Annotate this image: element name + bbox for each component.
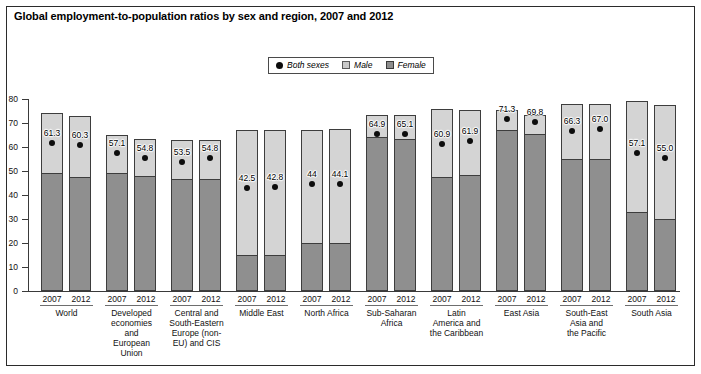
x-axis-region-label: Africa bbox=[359, 318, 424, 328]
both-sexes-marker-icon bbox=[272, 184, 278, 190]
x-axis-year-label: 2012 bbox=[198, 294, 224, 304]
x-axis-year-label: 2012 bbox=[653, 294, 679, 304]
x-axis-region-label: Sub-Saharan bbox=[359, 308, 424, 318]
bar-segment-female bbox=[459, 175, 481, 291]
x-axis-region-label: Latin bbox=[424, 308, 489, 318]
both-sexes-value-label: 60.3 bbox=[72, 130, 89, 140]
both-sexes-marker-icon bbox=[374, 131, 380, 137]
x-axis-region-label: Asia and bbox=[554, 318, 619, 328]
bar-2007[interactable]: 61.3 bbox=[41, 113, 63, 291]
y-axis-tick bbox=[22, 171, 28, 172]
bar-group: 57.155.0 bbox=[619, 99, 684, 291]
y-axis-tick-label: 10 bbox=[0, 262, 18, 272]
x-axis-region-label: Middle East bbox=[229, 308, 294, 318]
both-sexes-marker-icon bbox=[569, 128, 575, 134]
legend-item-both-sexes: Both sexes bbox=[276, 60, 329, 70]
both-sexes-value-label: 71.3 bbox=[499, 104, 516, 114]
bar-group: 53.554.8 bbox=[164, 99, 229, 291]
bar-2007[interactable]: 42.5 bbox=[236, 130, 258, 291]
both-sexes-value-label: 44 bbox=[307, 169, 316, 179]
bar-2007[interactable]: 44 bbox=[301, 130, 323, 291]
bar-2007[interactable]: 60.9 bbox=[431, 109, 453, 291]
bar-2012[interactable]: 55.0 bbox=[654, 105, 676, 291]
both-sexes-marker-icon bbox=[662, 155, 668, 161]
both-sexes-value-label: 61.9 bbox=[462, 126, 479, 136]
bar-segment-female bbox=[589, 159, 611, 291]
bar-2007[interactable]: 57.1 bbox=[106, 135, 128, 291]
bar-2012[interactable]: 44.1 bbox=[329, 129, 351, 291]
both-sexes-value-label: 64.9 bbox=[369, 119, 386, 129]
group-underline bbox=[40, 305, 93, 306]
both-sexes-value-label: 57.1 bbox=[109, 138, 126, 148]
bar-group: 4444.1 bbox=[294, 99, 359, 291]
x-axis-region-label: Developed bbox=[99, 308, 164, 318]
x-axis-region-label: America and bbox=[424, 318, 489, 328]
y-axis-tick bbox=[22, 219, 28, 220]
bar-group: 64.965.1 bbox=[359, 99, 424, 291]
bar-2012[interactable]: 69.8 bbox=[524, 115, 546, 291]
x-axis-group-4: 20072012Middle East bbox=[229, 294, 294, 318]
plot-area: 01020304050607080 61.360.357.154.853.554… bbox=[34, 99, 684, 291]
y-axis-line bbox=[28, 99, 29, 291]
male-swatch-icon bbox=[342, 61, 350, 69]
both-sexes-marker-icon bbox=[207, 155, 213, 161]
y-axis-tick-label: 20 bbox=[0, 238, 18, 248]
x-axis-region-label: and bbox=[99, 328, 164, 338]
bar-segment-female bbox=[626, 212, 648, 291]
x-axis-region-label: Central and bbox=[164, 308, 229, 318]
x-axis-group-10: 20072012South Asia bbox=[619, 294, 684, 318]
bar-segment-female bbox=[366, 137, 388, 291]
bar-2012[interactable]: 67.0 bbox=[589, 104, 611, 291]
y-axis-tick bbox=[22, 147, 28, 148]
x-axis-year-label: 2007 bbox=[429, 294, 455, 304]
x-axis-region-label: economies bbox=[99, 318, 164, 328]
bar-2007[interactable]: 57.1 bbox=[626, 101, 648, 291]
both-sexes-value-label: 66.3 bbox=[564, 116, 581, 126]
x-axis-region-label: East Asia bbox=[489, 308, 554, 318]
both-sexes-marker-icon bbox=[597, 126, 603, 132]
x-axis-year-label: 2007 bbox=[624, 294, 650, 304]
x-axis-region-label: South-Eastern bbox=[164, 318, 229, 328]
bar-segment-female bbox=[561, 159, 583, 291]
bar-segment-female bbox=[199, 179, 221, 291]
both-sexes-value-label: 54.8 bbox=[202, 143, 219, 153]
group-underline bbox=[235, 305, 288, 306]
chart-figure: Global employment-to-population ratios b… bbox=[0, 0, 701, 374]
y-axis-tick-label: 30 bbox=[0, 214, 18, 224]
both-sexes-marker-icon bbox=[244, 185, 250, 191]
both-sexes-value-label: 55.0 bbox=[657, 143, 674, 153]
both-sexes-marker-icon bbox=[309, 181, 315, 187]
bar-segment-female bbox=[264, 255, 286, 291]
legend-item-male: Male bbox=[342, 60, 372, 70]
bar-segment-female bbox=[41, 173, 63, 291]
x-axis-group-6: 20072012Sub-SaharanAfrica bbox=[359, 294, 424, 328]
bar-segment-female bbox=[236, 255, 258, 291]
bar-2012[interactable]: 65.1 bbox=[394, 115, 416, 291]
y-axis-tick-label: 60 bbox=[0, 142, 18, 152]
x-axis-year-label: 2007 bbox=[39, 294, 65, 304]
bar-2007[interactable]: 64.9 bbox=[366, 115, 388, 291]
y-axis-tick bbox=[22, 291, 28, 292]
both-sexes-marker-icon bbox=[77, 142, 83, 148]
both-sexes-marker-icon bbox=[504, 116, 510, 122]
both-sexes-marker-icon bbox=[276, 62, 283, 69]
bar-2012[interactable]: 54.8 bbox=[134, 139, 156, 291]
group-underline bbox=[300, 305, 353, 306]
bar-2007[interactable]: 71.3 bbox=[496, 110, 518, 291]
bar-segment-female bbox=[394, 139, 416, 291]
bar-2012[interactable]: 42.8 bbox=[264, 130, 286, 291]
x-axis-region-label: EU) and CIS bbox=[164, 338, 229, 348]
group-underline bbox=[105, 305, 158, 306]
female-swatch-icon bbox=[386, 61, 394, 69]
bar-2012[interactable]: 54.8 bbox=[199, 140, 221, 291]
x-axis-year-label: 2007 bbox=[494, 294, 520, 304]
x-axis-region-label: Europe (non- bbox=[164, 328, 229, 338]
bar-2007[interactable]: 53.5 bbox=[171, 140, 193, 291]
bar-2012[interactable]: 61.9 bbox=[459, 110, 481, 291]
x-axis-year-label: 2012 bbox=[133, 294, 159, 304]
bar-group: 57.154.8 bbox=[99, 99, 164, 291]
legend-label-female: Female bbox=[398, 60, 426, 70]
bar-2007[interactable]: 66.3 bbox=[561, 104, 583, 291]
x-axis-group-2: 20072012DevelopedeconomiesandEuropeanUni… bbox=[99, 294, 164, 358]
bar-2012[interactable]: 60.3 bbox=[69, 116, 91, 291]
